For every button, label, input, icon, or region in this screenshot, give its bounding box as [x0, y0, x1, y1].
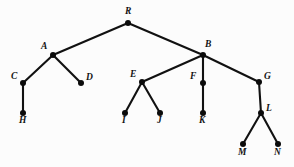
tree-node-label-h: H — [19, 116, 26, 126]
nodes-group — [20, 20, 281, 147]
tree-node-g — [256, 79, 262, 85]
tree-edge-l-n — [261, 113, 278, 144]
tree-node-label-n: N — [274, 148, 281, 158]
tree-node-f — [200, 80, 206, 86]
tree-edge-r-b — [128, 23, 203, 55]
tree-node-label-c: C — [11, 72, 17, 82]
tree-node-label-l: L — [266, 104, 272, 114]
tree-node-c — [20, 80, 26, 86]
tree-node-label-b: B — [205, 40, 211, 50]
tree-node-label-j: J — [157, 116, 162, 126]
tree-node-label-m: M — [238, 148, 246, 158]
tree-node-label-r: R — [125, 7, 131, 17]
tree-diagram: RABCDEFGHIJKLMN — [0, 0, 294, 167]
tree-node-r — [125, 20, 131, 26]
tree-node-label-e: E — [130, 70, 136, 80]
tree-node-l — [258, 110, 264, 116]
tree-edge-a-c — [23, 55, 53, 83]
tree-edge-b-g — [203, 55, 259, 82]
tree-node-label-i: I — [122, 116, 126, 126]
tree-node-e — [139, 79, 145, 85]
tree-edge-l-m — [243, 113, 261, 144]
edges-group — [23, 23, 278, 144]
tree-node-label-f: F — [190, 72, 196, 82]
tree-edge-r-a — [53, 23, 128, 55]
tree-node-label-g: G — [264, 72, 271, 82]
tree-node-d — [78, 80, 84, 86]
tree-graphics — [0, 0, 294, 167]
tree-edge-e-i — [125, 82, 142, 113]
tree-node-label-a: A — [41, 42, 47, 52]
tree-node-a — [50, 52, 56, 58]
tree-edge-a-d — [53, 55, 81, 83]
tree-edge-g-l — [259, 82, 261, 113]
tree-node-b — [200, 52, 206, 58]
tree-node-label-d: D — [86, 73, 93, 83]
tree-edge-e-j — [142, 82, 160, 113]
tree-node-label-k: K — [199, 116, 205, 126]
